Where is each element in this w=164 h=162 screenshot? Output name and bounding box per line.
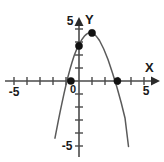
marked-point-vertex [88,29,95,36]
y-tick-label-5: 5 [67,14,74,28]
x-tick-label-5: 5 [143,84,150,98]
marked-point-y-intercept [75,42,82,49]
marked-point-x-intercept-right [114,77,121,84]
coordinate-graph: X Y -5 5 5 -5 0 [0,0,164,162]
x-axis-label: X [145,60,154,75]
y-tick-label-minus5: -5 [62,139,73,153]
x-axis-arrow-icon [151,77,160,86]
graph-canvas: X Y -5 5 5 -5 0 [0,0,164,162]
x-tick-label-minus5: -5 [9,85,20,99]
parabola-curve [55,33,129,147]
y-axis-arrow-icon [75,17,84,26]
origin-label: 0 [70,83,76,95]
y-axis-label: Y [85,12,94,27]
